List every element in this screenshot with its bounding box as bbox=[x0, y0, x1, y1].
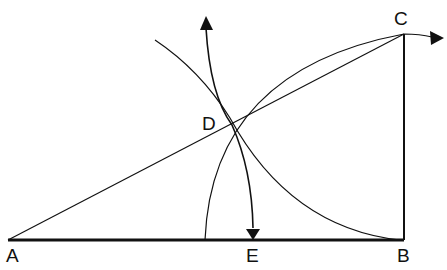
label-d: D bbox=[202, 114, 216, 133]
geometry-diagram: A B C D E bbox=[0, 0, 447, 270]
label-a: A bbox=[6, 246, 19, 265]
arrowhead-up-icon bbox=[200, 16, 213, 30]
label-e: E bbox=[246, 246, 259, 265]
label-b: B bbox=[397, 246, 410, 265]
segment-ac bbox=[8, 34, 404, 240]
arc-centered-c bbox=[155, 40, 400, 240]
arc-centered-b bbox=[205, 34, 432, 240]
arrowhead-down-icon bbox=[246, 229, 260, 240]
diagram-svg bbox=[0, 0, 447, 270]
label-c: C bbox=[394, 9, 408, 28]
arrowhead-right-icon bbox=[430, 31, 444, 45]
